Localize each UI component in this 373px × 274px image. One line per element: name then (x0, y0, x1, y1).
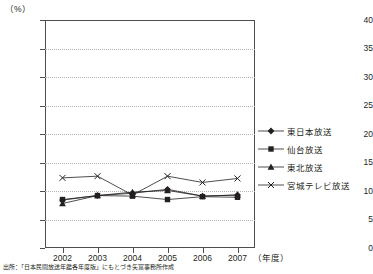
x-axis-tick-label: 2007 (218, 254, 258, 263)
gridline (45, 220, 255, 221)
square-icon (258, 142, 284, 156)
gridline (45, 134, 255, 135)
legend-item-label: 宮城テレビ放送 (287, 179, 350, 191)
legend-item-1[interactable]: 東日本放送 (258, 122, 373, 140)
x-axis-tick-label: 2005 (148, 254, 188, 263)
y-axis-tick-mark (40, 20, 45, 21)
x-axis-tick-label: 2002 (43, 254, 83, 263)
legend-item-3[interactable]: 東北放送 (258, 158, 373, 176)
legend-item-4[interactable]: 宮城テレビ放送 (258, 176, 373, 194)
legend: 東日本放送仙台放送東北放送宮城テレビ放送 (258, 122, 373, 194)
legend-item-label: 東北放送 (287, 161, 323, 173)
gridline (45, 77, 255, 78)
y-axis-tick-mark (40, 248, 45, 249)
x-axis-tick-label: 2003 (78, 254, 118, 263)
x-axis-tick-label: 2006 (183, 254, 223, 263)
cross-icon (258, 178, 284, 192)
gridline (45, 163, 255, 164)
y-axis-tick-label: 35 (339, 44, 373, 53)
legend-item-2[interactable]: 仙台放送 (258, 140, 373, 158)
diamond-icon (258, 124, 284, 138)
line-chart: （%） 0510152025303540 2002200320042005200… (0, 0, 373, 274)
x-axis-unit-label: （年度） (253, 254, 289, 263)
triangle-icon (258, 160, 284, 174)
x-axis-tick-label: 2004 (113, 254, 153, 263)
gridline (45, 191, 255, 192)
y-axis-tick-label: 5 (339, 215, 373, 224)
y-axis-tick-label: 40 (339, 16, 373, 25)
source-note: 出所：「日本民間放送年鑑各年度版」にもとづき矢富事務所作成 (3, 264, 174, 271)
y-axis-unit-label: （%） (5, 2, 31, 14)
gridline (45, 49, 255, 50)
y-axis-tick-label: 30 (339, 73, 373, 82)
y-axis-tick-label: 25 (339, 101, 373, 110)
legend-item-label: 東日本放送 (287, 125, 332, 137)
gridline (45, 106, 255, 107)
legend-item-label: 仙台放送 (287, 143, 323, 155)
y-axis-tick-label: 0 (339, 244, 373, 253)
